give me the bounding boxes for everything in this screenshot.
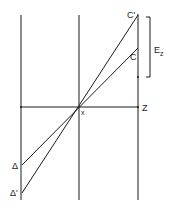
e-z-bracket [146, 17, 150, 77]
label-x: x [81, 109, 85, 116]
axis-right-end-dot [137, 106, 139, 108]
line-c-prime-delta-prime [22, 15, 138, 193]
label-e-subscript-z: z [160, 50, 164, 57]
axis-left-end-dot [20, 106, 22, 108]
bracket-bottom-dot [137, 76, 139, 78]
label-c-prime: C' [127, 10, 135, 20]
label-delta: Δ [12, 161, 18, 171]
diagram-canvas: C' C E z Z x Δ Δ' [0, 0, 172, 213]
label-z: Z [142, 103, 148, 113]
label-c: C [130, 52, 137, 62]
label-delta-prime: Δ' [10, 188, 18, 198]
